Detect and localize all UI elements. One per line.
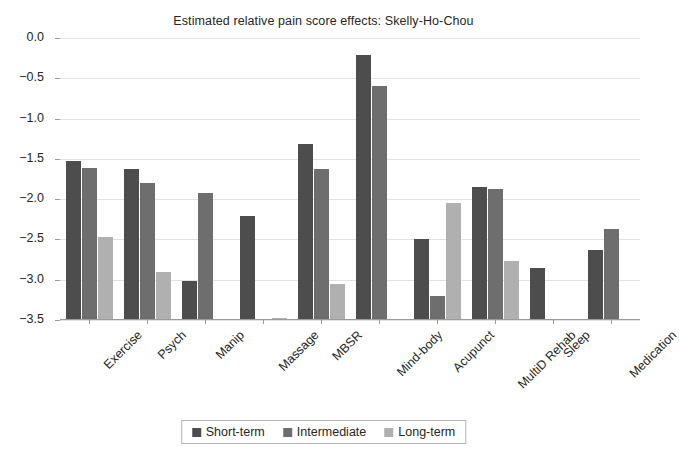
- x-tick-label: Acupunct: [450, 328, 497, 375]
- bar: [140, 183, 155, 320]
- legend-entry[interactable]: Short-term: [192, 425, 265, 439]
- x-tick-label: Psych: [155, 328, 189, 362]
- bar: [604, 229, 619, 320]
- bar-group: [524, 38, 582, 320]
- y-tick-label: −0.5: [0, 70, 44, 84]
- y-tick-label: −3.5: [0, 312, 44, 326]
- bar-groups: [60, 38, 640, 320]
- legend-label: Long-term: [398, 425, 455, 439]
- bar: [298, 144, 313, 320]
- legend-swatch-icon: [283, 428, 292, 437]
- legend-swatch-icon: [192, 428, 201, 437]
- legend-entry[interactable]: Long-term: [384, 425, 455, 439]
- bar: [530, 268, 545, 320]
- bar: [588, 250, 603, 320]
- bar: [504, 261, 519, 320]
- x-axis-labels: ExercisePsychManipMassageMBSRMind-bodyAc…: [60, 322, 640, 412]
- x-tick-label: Medication: [627, 328, 679, 381]
- bar: [66, 161, 81, 320]
- bar-group: [408, 38, 466, 320]
- chart-legend: Short-termIntermediateLong-term: [181, 420, 467, 444]
- y-tick-label: −1.0: [0, 111, 44, 125]
- y-tick-label: 0.0: [0, 30, 44, 44]
- x-tick-label: Exercise: [101, 328, 145, 372]
- x-tick-label: MBSR: [330, 328, 365, 363]
- legend-label: Short-term: [206, 425, 265, 439]
- bar-group: [292, 38, 350, 320]
- bar: [488, 189, 503, 320]
- legend-label: Intermediate: [297, 425, 366, 439]
- x-tick-label: Mind-body: [394, 328, 445, 379]
- plot-area: −3.5−3.0−2.5−2.0−1.5−1.0−0.50.0: [60, 38, 640, 320]
- bar: [314, 169, 329, 320]
- bar-group: [466, 38, 524, 320]
- bar: [430, 296, 445, 320]
- bar-group: [350, 38, 408, 320]
- y-tick-mark: [55, 320, 60, 321]
- bar: [330, 284, 345, 320]
- bar: [98, 237, 113, 320]
- bar-group: [118, 38, 176, 320]
- bar: [124, 169, 139, 320]
- bar-group: [582, 38, 640, 320]
- bar: [372, 86, 387, 320]
- bar: [414, 239, 429, 320]
- y-tick-label: −2.5: [0, 231, 44, 245]
- x-tick-label: Massage: [276, 328, 322, 374]
- bar: [198, 193, 213, 320]
- bar-group: [176, 38, 234, 320]
- legend-entry[interactable]: Intermediate: [283, 425, 366, 439]
- bar: [446, 203, 461, 320]
- y-tick-label: −2.0: [0, 191, 44, 205]
- y-tick-label: −3.0: [0, 272, 44, 286]
- y-tick-label: −1.5: [0, 151, 44, 165]
- bar: [182, 281, 197, 320]
- bar-group: [60, 38, 118, 320]
- bar: [156, 272, 171, 320]
- bar: [82, 168, 97, 320]
- bar: [472, 187, 487, 320]
- bar: [240, 216, 255, 320]
- bar-group: [234, 38, 292, 320]
- bar: [356, 55, 371, 320]
- chart-title: Estimated relative pain score effects: S…: [0, 14, 647, 28]
- legend-swatch-icon: [384, 428, 393, 437]
- x-tick-label: Manip: [213, 328, 247, 362]
